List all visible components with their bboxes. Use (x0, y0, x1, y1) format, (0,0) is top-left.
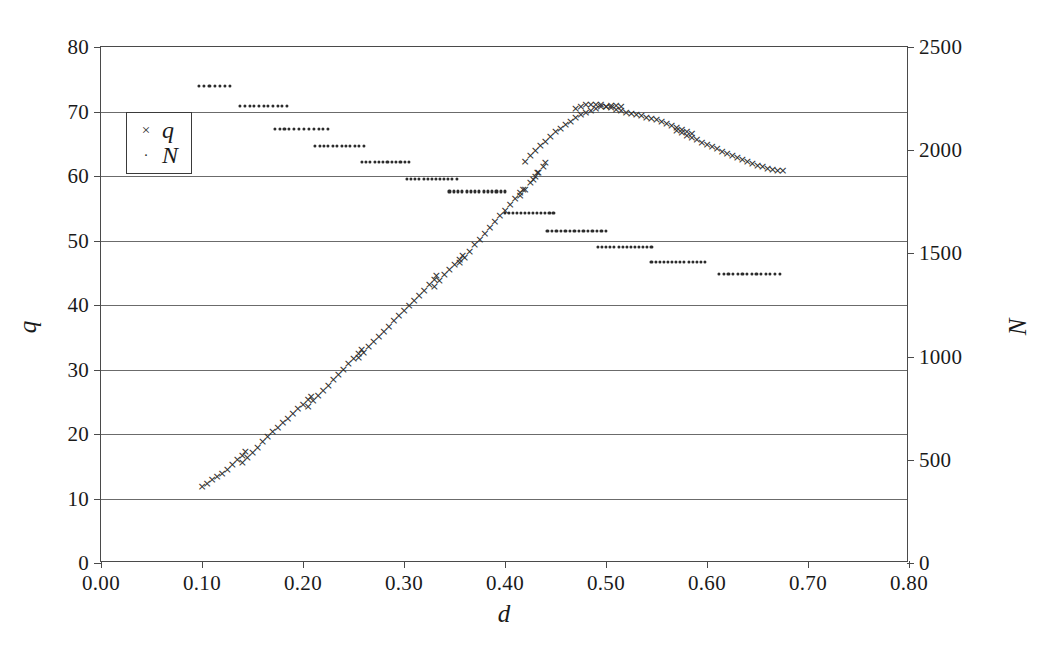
data-point-n (586, 229, 589, 232)
data-point-n (362, 145, 365, 148)
data-point-q: × (617, 100, 626, 111)
data-point-q: × (389, 315, 398, 326)
data-point-q: × (415, 289, 424, 300)
y-axis-right-tick-label: 2000 (919, 138, 962, 163)
y-axis-left-tick-label: 70 (67, 99, 89, 124)
data-point-q: × (539, 160, 548, 171)
data-point-q: × (627, 107, 636, 118)
data-point-q: × (596, 101, 605, 112)
data-point-q: × (505, 198, 514, 209)
data-point-q: × (672, 124, 681, 135)
data-point-q: × (490, 216, 499, 227)
data-point-n (403, 160, 406, 163)
data-point-n (455, 178, 458, 181)
data-point-n (418, 178, 421, 181)
data-point-q: × (213, 470, 222, 481)
data-point-n (208, 85, 211, 88)
data-point-q: × (465, 245, 474, 256)
data-point-q: × (561, 118, 570, 129)
data-point-n (285, 104, 288, 107)
data-point-n (568, 229, 571, 232)
data-point-n (257, 104, 260, 107)
data-point-n (512, 212, 515, 215)
data-point-q: × (319, 385, 328, 396)
data-point-n (456, 190, 459, 193)
data-point-n (609, 246, 612, 249)
data-point-n (410, 178, 413, 181)
y-axis-right-title: N (1004, 319, 1032, 336)
data-point-n (312, 127, 315, 130)
data-point-n (452, 190, 455, 193)
gridline (101, 370, 907, 371)
gridline (101, 499, 907, 500)
data-point-q: × (657, 116, 666, 127)
x-axis-tick (909, 561, 910, 568)
data-point-n (281, 104, 284, 107)
data-point-n (349, 145, 352, 148)
data-point-n (746, 272, 749, 275)
data-point-n (203, 85, 206, 88)
data-point-q: × (384, 320, 393, 331)
data-point-n (507, 212, 510, 215)
data-point-q: × (238, 449, 247, 460)
data-point-q: × (723, 147, 732, 158)
data-point-n (283, 127, 286, 130)
data-point-n (577, 229, 580, 232)
data-point-q: × (432, 270, 441, 281)
legend-label-n: N (162, 142, 178, 169)
data-point-n (573, 229, 576, 232)
y-axis-left-title: q (14, 321, 42, 334)
data-point-q: × (677, 123, 686, 134)
data-point-n (395, 160, 398, 163)
data-point-q: × (556, 122, 565, 133)
data-point-q: × (682, 125, 691, 136)
data-point-n (353, 145, 356, 148)
data-point-n (544, 212, 547, 215)
x-axis-tick (808, 561, 809, 568)
data-point-q: × (778, 164, 787, 175)
x-axis-title: d (498, 600, 511, 628)
data-point-n (447, 178, 450, 181)
data-point-n (443, 178, 446, 181)
data-point-q: × (430, 274, 439, 285)
data-point-q: × (526, 177, 535, 188)
data-point-q: × (268, 426, 277, 437)
data-point-n (532, 212, 535, 215)
y-axis-left-tick (94, 47, 101, 48)
data-point-q: × (707, 141, 716, 152)
data-point-n (267, 104, 270, 107)
data-point-q: × (430, 280, 439, 291)
y-axis-left-tick (94, 563, 101, 564)
data-point-q: × (248, 447, 257, 458)
data-point-q: × (667, 120, 676, 131)
data-point-n (755, 272, 758, 275)
data-point-q: × (738, 154, 747, 165)
data-point-q: × (329, 374, 338, 385)
y-axis-left-tick-label: 40 (67, 293, 89, 318)
data-point-q: × (516, 187, 525, 198)
data-point-q: × (531, 145, 540, 156)
data-point-q: × (733, 152, 742, 163)
y-axis-right-tick (907, 357, 914, 358)
data-point-n (629, 246, 632, 249)
data-point-n (491, 190, 494, 193)
data-point-n (273, 127, 276, 130)
data-point-n (218, 85, 221, 88)
data-point-q: × (521, 155, 530, 166)
data-point-n (229, 85, 232, 88)
data-point-q: × (516, 190, 525, 201)
data-point-n (302, 127, 305, 130)
data-point-q: × (773, 164, 782, 175)
data-point-q: × (369, 336, 378, 347)
data-point-n (516, 212, 519, 215)
data-point-n (774, 272, 777, 275)
y-axis-right-tick (907, 47, 914, 48)
data-point-q: × (354, 347, 363, 358)
y-axis-right-tick-label: 500 (919, 447, 951, 472)
x-axis-tick-label: 0.70 (789, 571, 827, 596)
data-point-n (248, 104, 251, 107)
y-axis-left-tick-label: 50 (67, 228, 89, 253)
data-point-n (736, 272, 739, 275)
data-point-n (582, 229, 585, 232)
data-point-n (438, 178, 441, 181)
